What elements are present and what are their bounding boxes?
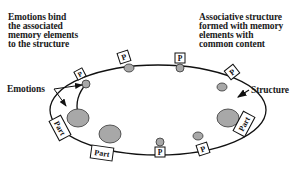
node-bottom-left-large <box>99 125 121 143</box>
p-box-bottom-center: P <box>155 147 165 157</box>
p-label: P <box>158 148 163 157</box>
node-right-large <box>217 109 239 127</box>
node-emotion-small <box>82 80 90 88</box>
node-top-center <box>176 64 184 72</box>
annotation-structure: Structure <box>251 86 289 95</box>
part-box-bottom: Part <box>90 145 114 161</box>
p-box-top-right: P <box>224 64 239 79</box>
node-top-left <box>124 64 134 72</box>
node-left-large <box>67 109 89 127</box>
annotation-emotions-bind: Emotions bind the associated memory elem… <box>8 13 78 49</box>
node-top-right <box>217 83 227 91</box>
p-box-bottom-right: P <box>196 142 210 156</box>
associative-structure-diagram: P P P P P P Part Part <box>0 0 305 174</box>
node-bottom-center <box>156 138 164 146</box>
p-box-top-left: P <box>117 50 131 64</box>
p-box-upper-left: P <box>74 68 86 80</box>
node-bottom-right <box>193 132 203 140</box>
structure-arrow <box>238 90 249 97</box>
p-box-top-center: P <box>175 53 185 63</box>
p-label: P <box>178 54 183 63</box>
memory-nodes <box>67 64 239 146</box>
annotation-emotions: Emotions <box>7 85 45 94</box>
annotation-associative-structure: Associative structure formed with memory… <box>199 13 283 49</box>
